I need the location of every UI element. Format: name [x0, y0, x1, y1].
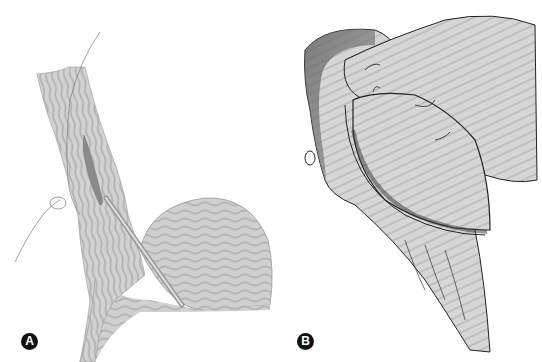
panel-b: B	[275, 0, 542, 362]
illustration-b	[275, 0, 542, 362]
illustration-a	[0, 0, 275, 362]
panel-label-a: A	[21, 333, 38, 350]
panel-label-b: B	[297, 333, 314, 350]
panel-a: A	[0, 0, 275, 362]
